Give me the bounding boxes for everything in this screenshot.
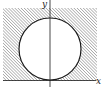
x-axis-label: x	[96, 76, 101, 86]
diagram: y x	[0, 0, 102, 87]
y-axis-label: y	[41, 0, 48, 9]
